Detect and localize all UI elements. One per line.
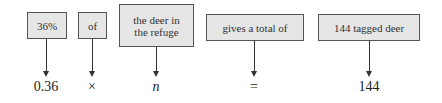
math-variable: n — [126, 79, 186, 95]
arrow-down-icon — [92, 39, 93, 72]
math-value: 144 — [339, 79, 399, 95]
phrase-text: of — [88, 20, 97, 32]
math-operator-times: × — [62, 79, 122, 95]
math-operator-equals: = — [224, 79, 284, 95]
phrase-box-gives-total: gives a total of — [206, 14, 304, 41]
phrase-box-deer-in-refuge: the deer in the refuge — [119, 4, 194, 47]
arrow-down-icon — [156, 47, 157, 72]
phrase-text: 36% — [37, 20, 57, 32]
phrase-text: 144 tagged deer — [334, 22, 404, 34]
phrase-text-line-1: the deer in — [133, 14, 179, 26]
phrase-box-of: of — [78, 12, 107, 39]
arrow-down-icon — [46, 39, 47, 72]
phrase-text: gives a total of — [222, 22, 287, 34]
arrow-down-icon — [254, 41, 255, 72]
arrow-down-icon — [369, 41, 370, 72]
phrase-text-line-2: the refuge — [134, 26, 178, 38]
phrase-box-tagged-deer: 144 tagged deer — [318, 14, 420, 41]
phrase-box-percent: 36% — [27, 12, 67, 39]
